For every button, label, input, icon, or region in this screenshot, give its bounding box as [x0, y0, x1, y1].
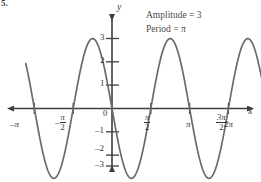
neg-pi-half-num: π	[60, 113, 66, 122]
y-tick-label-3: 3	[100, 32, 105, 42]
origin-label: 0	[103, 108, 107, 118]
x-tick-label-2pi: 2π	[224, 119, 233, 129]
neg-pi-half-den: 2	[60, 122, 66, 132]
x-tick-label-neg-pi: –π	[10, 119, 19, 129]
y-tick-label-neg3: –3	[95, 159, 104, 169]
x-tick-label-pi-over-2: π2	[144, 114, 150, 132]
pi-half-num: π	[144, 113, 150, 122]
two-pi-text: 2π	[224, 119, 233, 129]
x-tick-label-neg-pi-over-2: –π2	[55, 114, 66, 132]
y-tick-label-neg2: –2	[95, 143, 104, 153]
y-tick-label-1: 1	[100, 78, 105, 88]
trigonometric-graph-figure: 5. Amplitude = 3 Period = π y x	[0, 0, 261, 182]
x-tick-label-pi: π	[186, 119, 191, 129]
y-tick-label-2: 2	[100, 55, 105, 65]
y-tick-label-neg1: –1	[95, 125, 104, 135]
graph-canvas	[0, 0, 261, 182]
pi-text: π	[186, 119, 191, 129]
pi-half-den: 2	[144, 122, 150, 132]
